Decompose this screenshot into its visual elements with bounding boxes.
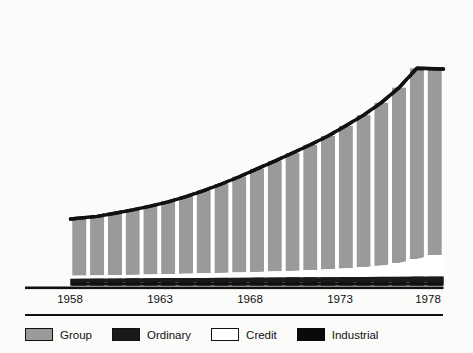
legend-item-group: Group (25, 328, 92, 341)
chart-figure: 12,000dollars 9,000 6,000 3,000 0 1958 1… (0, 0, 473, 353)
x-axis-tick-1978: 1978 (400, 293, 456, 305)
legend-label-credit: Credit (246, 329, 277, 341)
x-axis-tick-1978-value: 1978 (415, 293, 441, 305)
legend-label-group: Group (60, 329, 92, 341)
x-axis-tick-1973-value: 1973 (327, 293, 353, 305)
legend-item-credit: Credit (211, 328, 277, 341)
gray-swatch (25, 328, 53, 341)
legend-divider (25, 314, 443, 316)
legend-label-ordinary: Ordinary (147, 329, 191, 341)
x-axis-tick-1958-value: 1958 (57, 293, 83, 305)
x-axis-tick-1963-value: 1963 (147, 293, 173, 305)
x-axis-tick-1968: 1968 (222, 293, 278, 305)
x-axis-tick-1968-value: 1968 (237, 293, 263, 305)
x-axis-tick-1958: 1958 (42, 293, 98, 305)
black-swatch (112, 328, 140, 341)
x-axis-tick-1973: 1973 (312, 293, 368, 305)
white-swatch (211, 328, 239, 341)
chart-legend: Group Ordinary Credit Industrial (25, 328, 398, 341)
x-axis-tick-1963: 1963 (132, 293, 188, 305)
legend-item-industrial: Industrial (297, 328, 379, 341)
solid-black-swatch (297, 328, 325, 341)
legend-item-ordinary: Ordinary (112, 328, 191, 341)
legend-label-industrial: Industrial (332, 329, 379, 341)
